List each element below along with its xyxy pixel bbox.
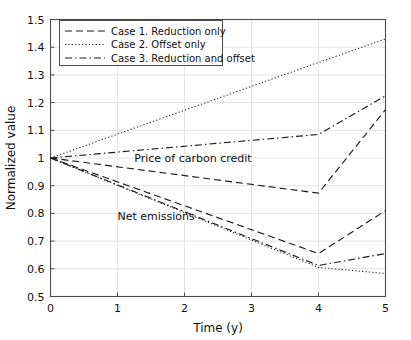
x-tick-label: 2 [181,302,188,315]
x-tick-label: 0 [47,302,54,315]
x-tick-label: 5 [382,302,389,315]
x-tick-label: 3 [248,302,255,315]
y-axis-title: Normalized value [4,106,18,211]
series-line [51,96,386,158]
legend: Case 1. Reduction onlyCase 2. Offset onl… [60,21,255,66]
plot-annotations: Price of carbon creditNet emissions [118,152,253,223]
y-tick-label: 1.2 [27,97,45,110]
legend-item-label: Case 3. Reduction and offset [111,53,255,64]
y-tick-label: 1.3 [27,69,45,82]
y-tick-label: 1.1 [27,124,45,137]
chart-figure: 0.50.60.70.80.911.11.21.31.41.5 012345 N… [0,0,411,340]
series-line [51,158,386,265]
x-tick-label: 1 [114,302,121,315]
line-chart: 0.50.60.70.80.911.11.21.31.41.5 012345 N… [0,0,411,340]
y-tick-label: 0.6 [27,263,45,276]
y-tick-label: 0.7 [27,235,45,248]
legend-item-label: Case 2. Offset only [111,39,206,50]
y-tick-labels: 0.50.60.70.80.911.11.21.31.41.5 [27,14,45,304]
y-tick-label: 0.8 [27,207,45,220]
y-tick-label: 1 [38,152,45,165]
series-line [51,158,386,274]
y-tick-label: 1.5 [27,14,45,27]
y-tick-label: 0.9 [27,180,45,193]
y-tick-label: 1.4 [27,41,45,54]
x-axis-title: Time (y) [192,321,243,335]
y-tick-label: 0.5 [27,291,45,304]
plot-annotation: Net emissions [118,210,196,223]
x-tick-label: 4 [315,302,322,315]
plot-annotation: Price of carbon credit [134,152,252,165]
x-tick-labels: 012345 [47,302,389,315]
legend-item-label: Case 1. Reduction only [111,26,226,37]
